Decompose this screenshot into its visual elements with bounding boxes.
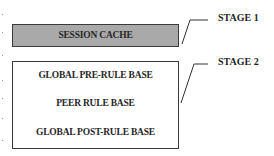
stage2-leader-line: [181, 64, 208, 103]
stage1-leader-line: [182, 20, 208, 44]
stage1-label: STAGE 1: [218, 12, 259, 23]
stage2-label: STAGE 2: [218, 56, 259, 67]
leader-lines: [0, 0, 274, 156]
